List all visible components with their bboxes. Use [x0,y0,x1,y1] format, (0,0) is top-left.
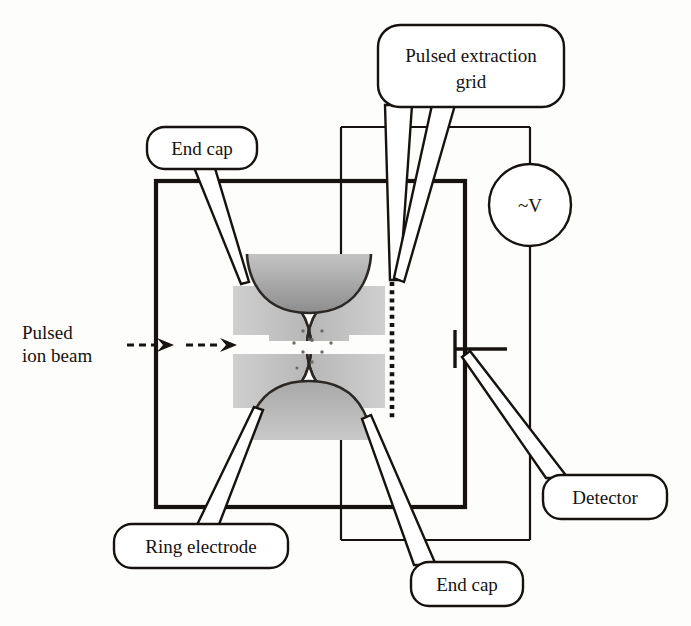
voltage-source-label: ~V [518,195,542,216]
callout-pulsed-extraction-grid-line1: Pulsed extraction [405,45,537,66]
callout-end-cap-top-label: End cap [171,138,233,159]
callout-ring-electrode-label: Ring electrode [145,536,256,557]
pulsed-ion-beam-label-line1: Pulsed [22,322,73,343]
callout-end-cap-top[interactable]: End cap [147,127,257,284]
callout-end-cap-bottom[interactable]: End cap [362,415,523,606]
figure-canvas: ~V [0,0,691,626]
callout-detector[interactable]: Detector [462,351,667,519]
callout-pulsed-extraction-grid-line2: grid [456,71,487,92]
detector-plate [455,330,507,368]
callout-end-cap-bottom-label: End cap [436,574,498,595]
ion-trap-diagram: ~V [0,0,691,626]
callout-detector-label: Detector [572,487,638,508]
pulsed-ion-beam-arrows [127,338,237,352]
pulsed-ion-beam-label-line2: ion beam [22,345,92,366]
ac-voltage-source: ~V [489,164,571,246]
